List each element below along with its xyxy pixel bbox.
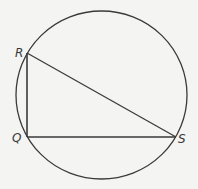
point-label-s: S bbox=[178, 132, 186, 146]
circle-triangle-figure: R Q S bbox=[0, 0, 198, 189]
point-label-r: R bbox=[15, 46, 23, 60]
point-label-q: Q bbox=[12, 131, 21, 145]
diagram-canvas: R Q S bbox=[0, 0, 198, 189]
segment-rs bbox=[27, 53, 176, 137]
